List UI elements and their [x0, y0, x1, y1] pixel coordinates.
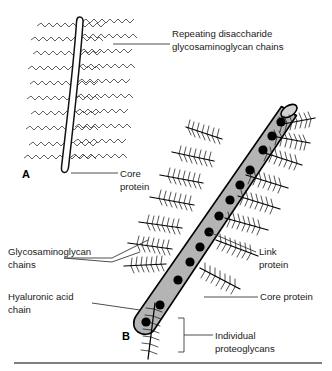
link-protein-dot	[267, 131, 276, 140]
link-protein-dot	[214, 211, 223, 220]
link-protein-dot	[173, 275, 182, 284]
link-protein-dot	[155, 300, 164, 309]
link-protein-dot	[235, 180, 244, 189]
figure-canvas: A	[0, 0, 332, 371]
label-hyaluronic-acid-line1: Hyaluronic acid	[8, 291, 74, 302]
label-individual-proteoglycans-line2: proteoglycans	[215, 343, 275, 354]
link-protein-dot	[276, 117, 285, 126]
label-core-protein-a-line2: protein	[120, 181, 149, 192]
link-protein-dot	[195, 242, 204, 251]
label-repeating-disaccharide-line1: Repeating disaccharide	[172, 28, 272, 39]
figure-background	[0, 0, 332, 371]
label-individual-proteoglycans-line1: Individual	[215, 330, 256, 341]
label-repeating-disaccharide-line2: glycosaminoglycan chains	[172, 41, 284, 52]
label-core-protein-a-line1: Core	[120, 168, 141, 179]
link-protein-dot	[225, 195, 234, 204]
link-protein-dot	[258, 145, 267, 154]
label-link-protein-line1: Link	[259, 246, 277, 257]
proteoglycan-figure: A	[0, 0, 332, 371]
panel-letter-a: A	[22, 168, 30, 180]
label-hyaluronic-acid-line2: chain	[8, 304, 31, 315]
link-protein-dot	[245, 165, 254, 174]
panel-letter-b: B	[122, 330, 130, 342]
link-protein-dot	[185, 257, 194, 266]
label-glycosaminoglycan-chains-line2: chains	[8, 259, 36, 270]
label-link-protein-line2: protein	[259, 259, 288, 270]
link-protein-dot	[141, 317, 150, 326]
label-glycosaminoglycan-chains-line1: Glycosaminoglycan	[8, 246, 91, 257]
label-core-protein-b: Core protein	[260, 291, 313, 302]
